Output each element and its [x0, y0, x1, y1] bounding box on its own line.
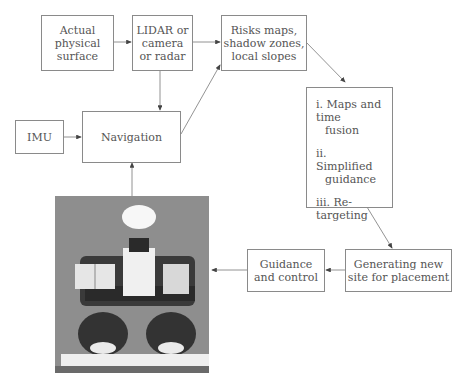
- node-label-line: Guidance: [260, 258, 313, 271]
- rover-illustration: [55, 196, 209, 373]
- robot-photo: [55, 196, 209, 373]
- node-processing-steps: i. Maps and time fusion ii. Simplified g…: [306, 87, 393, 208]
- step-label: iii. Re-targeting: [316, 196, 386, 222]
- node-label-line: local slopes: [232, 50, 297, 63]
- node-label-line: surface: [57, 50, 98, 63]
- arrow-navigation-to-risks: [181, 65, 220, 134]
- node-label-line: Actual: [60, 24, 96, 37]
- node-label-line: shadow zones,: [223, 37, 304, 50]
- node-navigation: Navigation: [82, 111, 181, 163]
- node-label: Navigation: [101, 131, 162, 144]
- node-label-line: and control: [254, 271, 318, 284]
- node-imu: IMU: [15, 120, 64, 154]
- node-label-line: camera: [142, 37, 183, 50]
- node-label: IMU: [27, 131, 52, 144]
- node-generating-new-site: Generating new site for placement: [345, 249, 452, 292]
- arrow-risks-to-steps: [306, 42, 345, 82]
- node-lidar-camera-radar: LIDAR or camera or radar: [132, 15, 193, 71]
- step-item: iii. Re-targeting: [316, 196, 386, 222]
- node-label-line: LIDAR or: [136, 24, 188, 37]
- node-label-line: Generating new: [354, 258, 443, 271]
- step-label-cont: guidance: [316, 173, 386, 186]
- node-label-line: physical: [55, 37, 101, 50]
- node-actual-physical-surface: Actual physical surface: [41, 15, 114, 71]
- step-label: ii. Simplified: [316, 147, 386, 173]
- step-item: i. Maps and time fusion: [316, 98, 386, 137]
- node-risks-maps: Risks maps, shadow zones, local slopes: [221, 15, 307, 71]
- step-label-cont: fusion: [316, 124, 386, 137]
- node-guidance-control: Guidance and control: [247, 249, 325, 292]
- node-label-line: Risks maps,: [231, 24, 297, 37]
- step-label: i. Maps and time: [316, 98, 386, 124]
- node-label-line: or radar: [139, 50, 185, 63]
- node-label-line: site for placement: [348, 271, 449, 284]
- step-item: ii. Simplified guidance: [316, 147, 386, 186]
